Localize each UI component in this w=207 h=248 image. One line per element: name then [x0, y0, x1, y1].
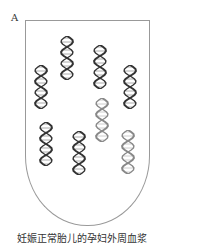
dna-helix-icon — [121, 130, 135, 174]
dna-helix-icon — [39, 122, 53, 166]
dna-helix-icon — [34, 65, 48, 109]
caption: 妊娠正常胎儿的孕妇外周血浆 — [17, 230, 147, 245]
panel-label: A — [11, 12, 18, 23]
dna-helix-icon — [123, 65, 137, 109]
dna-helix-icon — [93, 45, 107, 89]
dna-helix-icon — [95, 98, 109, 142]
dna-helix-icon — [72, 131, 86, 175]
dna-helix-icon — [60, 36, 74, 80]
